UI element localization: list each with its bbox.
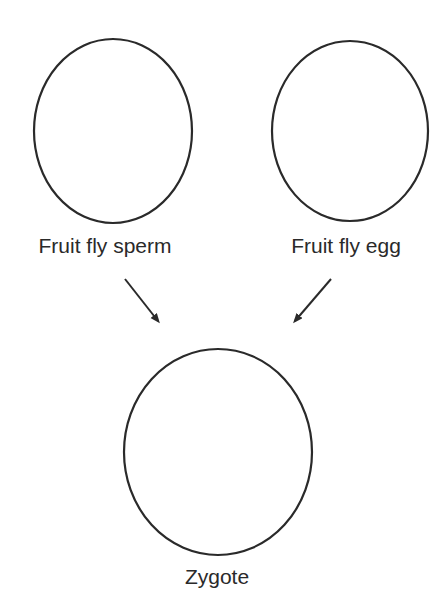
zygote-cell — [124, 349, 312, 555]
zygote-label: Zygote — [185, 565, 249, 588]
egg-cell — [272, 41, 428, 221]
fertilization-diagram: Fruit fly sperm Fruit fly egg Zygote — [0, 0, 447, 603]
egg-label: Fruit fly egg — [291, 234, 401, 257]
sperm-cell — [34, 39, 192, 223]
arrow-sperm-to-zygote — [125, 279, 158, 321]
arrow-egg-to-zygote — [295, 279, 331, 321]
sperm-label: Fruit fly sperm — [38, 234, 171, 257]
